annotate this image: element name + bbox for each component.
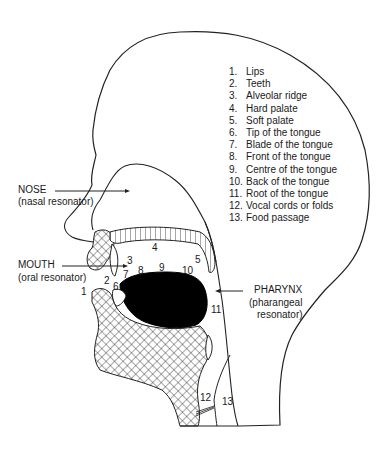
legend-item: 13.Food passage	[229, 212, 337, 224]
marker-13: 13	[222, 397, 233, 407]
legend: 1.Lips 2.Teeth 3.Alveolar ridge 4.Hard p…	[229, 66, 337, 225]
legend-item: 1.Lips	[229, 66, 337, 78]
marker-7: 7	[123, 270, 129, 280]
marker-8: 8	[138, 266, 144, 276]
marker-11: 11	[211, 305, 221, 315]
legend-item: 6.Tip of the tongue	[229, 127, 337, 139]
nose-label: NOSE	[18, 184, 46, 196]
legend-item: 2.Teeth	[229, 78, 337, 90]
legend-item: 10.Back of the tongue	[229, 176, 337, 188]
upper-tooth	[110, 244, 118, 276]
legend-item: 5.Soft palate	[229, 115, 337, 127]
pharynx-desc2: resonator)	[257, 309, 303, 321]
marker-2: 2	[104, 276, 110, 286]
marker-10: 10	[182, 266, 193, 276]
marker-4: 4	[152, 243, 158, 253]
legend-item: 12.Vocal cords or folds	[229, 200, 337, 212]
epiglottis	[206, 335, 212, 360]
marker-5: 5	[195, 255, 201, 265]
marker-3: 3	[127, 256, 133, 266]
nose-outline	[65, 185, 93, 242]
marker-6: 6	[113, 282, 119, 292]
legend-item: 9.Centre of the tongue	[229, 164, 337, 176]
legend-item: 8.Front of the tongue	[229, 151, 337, 163]
legend-item: 4.Hard palate	[229, 103, 337, 115]
pharynx-desc1: (pharangeal	[249, 297, 302, 309]
mouth-label: MOUTH	[18, 259, 55, 271]
marker-9: 9	[159, 263, 165, 273]
marker-1: 1	[81, 287, 87, 297]
larynx-line	[214, 355, 230, 426]
mouth-desc: (oral resonator)	[18, 272, 86, 284]
legend-item: 11.Root of the tongue	[229, 188, 337, 200]
pharynx-label: PHARYNX	[254, 284, 302, 296]
tongue	[120, 272, 207, 328]
legend-item: 7.Blade of the tongue	[229, 139, 337, 151]
nose-desc: (nasal resonator)	[18, 196, 94, 208]
marker-12: 12	[200, 393, 211, 403]
legend-item: 3.Alveolar ridge	[229, 90, 337, 102]
